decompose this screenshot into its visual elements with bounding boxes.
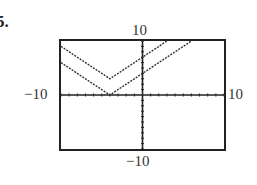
graph-plot [0, 0, 257, 185]
curves [61, 41, 191, 95]
curve-2 [61, 41, 167, 79]
